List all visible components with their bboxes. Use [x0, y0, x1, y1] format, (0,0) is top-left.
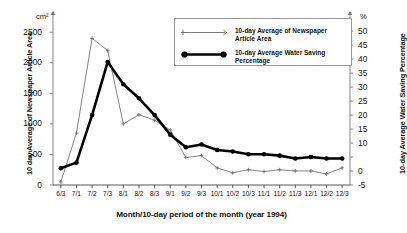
legend-label-article-area: 10-day Average of Newspaper Article Area: [235, 27, 347, 42]
legend-label-water-saving: 10-day Average Water Saving Percentage: [235, 49, 347, 64]
legend-swatch-bold-line: [181, 50, 227, 59]
legend-entry-article-area: 10-day Average of Newspaper Article Area: [181, 28, 227, 37]
legend-swatch-thin-line: [181, 28, 227, 37]
legend-entry-water-saving: 10-day Average Water Saving Percentage: [181, 50, 227, 59]
chart-legend: 10-day Average of Newspaper Article Area…: [174, 18, 352, 66]
